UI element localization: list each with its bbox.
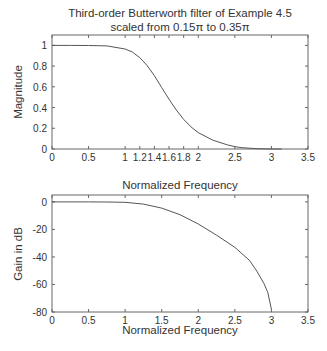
- magnitude-xtick-label: 3: [269, 152, 275, 163]
- magnitude-ytick-label: 0.8: [33, 61, 47, 72]
- magnitude-xtick-label: 1: [122, 152, 128, 163]
- magnitude-xtick-label: 3.5: [301, 152, 315, 163]
- magnitude-axes-box: [52, 35, 308, 149]
- magnitude-xlabel: Normalized Frequency: [122, 179, 238, 191]
- magnitude-ytick-label: 1: [41, 40, 47, 51]
- magnitude-curve: [52, 45, 282, 149]
- chart-subtitle: scaled from 0.15π to 0.35π: [110, 21, 249, 33]
- gain-xtick-label: 3.5: [301, 315, 315, 326]
- magnitude-plot: 00.511.21.41.61.822.533.500.20.40.60.81: [33, 35, 315, 163]
- magnitude-ytick-label: 0.4: [33, 103, 47, 114]
- gain-axes-box: [52, 195, 308, 312]
- magnitude-ylabel: Magnitude: [12, 65, 24, 119]
- gain-curve: [52, 202, 271, 309]
- gain-plot: 00.511.522.533.5-80-60-40-200: [33, 195, 316, 326]
- magnitude-xtick-label: 1.2: [133, 152, 147, 163]
- gain-ytick-label: -20: [33, 224, 48, 235]
- magnitude-xtick-label: 2: [196, 152, 202, 163]
- gain-ytick-label: -60: [33, 279, 48, 290]
- gain-ytick-label: -40: [33, 252, 48, 263]
- magnitude-xtick-label: 0.5: [82, 152, 96, 163]
- gain-ytick-label: 0: [41, 197, 47, 208]
- magnitude-xtick-label: 1.4: [147, 152, 161, 163]
- magnitude-xtick-label: 2.5: [228, 152, 242, 163]
- magnitude-ytick-label: 0: [41, 144, 47, 155]
- gain-xtick-label: 0: [49, 315, 55, 326]
- gain-xlabel: Normalized Frequency: [122, 324, 238, 336]
- gain-xtick-label: 0.5: [82, 315, 96, 326]
- chart-title: Third-order Butterworth filter of Exampl…: [68, 7, 292, 19]
- magnitude-ytick-label: 0.6: [33, 82, 47, 93]
- magnitude-xtick-label: 1.8: [177, 152, 191, 163]
- magnitude-xtick-label: 0: [49, 152, 55, 163]
- butterworth-chart: Third-order Butterworth filter of Exampl…: [0, 0, 327, 351]
- magnitude-xtick-label: 1.6: [162, 152, 176, 163]
- gain-ytick-label: -80: [33, 307, 48, 318]
- gain-ylabel: Gain in dB: [12, 227, 24, 281]
- magnitude-ytick-label: 0.2: [33, 123, 47, 134]
- gain-xtick-label: 3: [269, 315, 275, 326]
